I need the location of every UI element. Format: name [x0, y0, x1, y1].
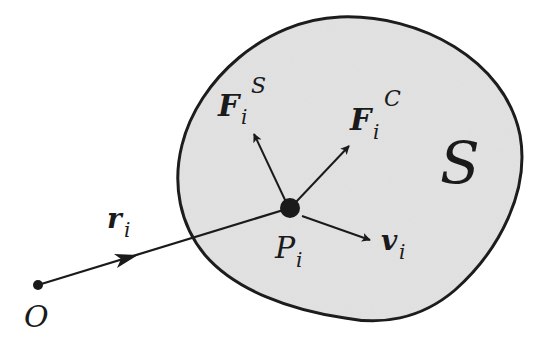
- velocity-subscript: i: [399, 240, 405, 264]
- contact-force-subscript: i: [373, 120, 379, 144]
- contact-force-superscript: C: [384, 86, 401, 111]
- position-vector-label: r i: [107, 202, 130, 242]
- velocity-main: v: [381, 224, 398, 257]
- origin-label: O: [24, 299, 49, 334]
- point-p-main: P: [274, 230, 296, 265]
- point-p-marker: [280, 198, 300, 218]
- diagram-canvas: S O P i r i F i S F i C v i: [0, 0, 535, 340]
- surface-force-main: F: [217, 88, 242, 123]
- position-vector-subscript: i: [124, 218, 130, 242]
- point-p-subscript: i: [296, 248, 302, 272]
- origin-marker: [33, 280, 43, 290]
- surface-force-superscript: S: [251, 73, 266, 98]
- surface-force-subscript: i: [241, 105, 247, 129]
- region-s-label: S: [440, 129, 480, 197]
- contact-force-main: F: [349, 102, 374, 137]
- position-vector-main: r: [107, 202, 124, 235]
